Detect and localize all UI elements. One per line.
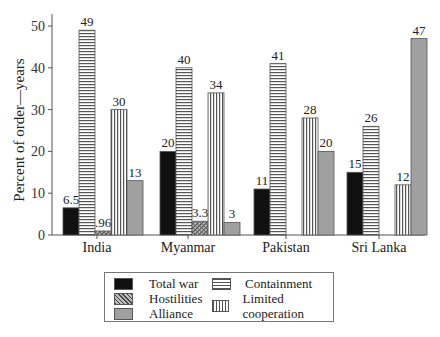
y-axis-label: Percent of order—years [11,58,27,201]
legend-swatch-alliance [114,308,133,320]
bar [127,181,143,235]
bar [347,172,363,235]
bar-value-label: 13 [129,165,142,180]
bar [318,151,334,235]
bar-value-label: 20 [162,135,175,150]
bar-value-label: 3 [229,206,236,221]
bar [79,30,95,235]
legend-label: Containment [245,276,312,291]
chart-legend: Total war Hostilities Alliance Containme… [104,272,334,322]
bar-value-label: 11 [256,173,269,188]
bar [302,118,318,235]
bar-value-label: 34 [210,77,224,92]
legend-swatch-limited-cooperation [212,300,229,312]
bar-value-label: 41 [272,48,285,63]
bar [208,93,224,235]
y-tick-label: 0 [38,228,45,243]
legend-item-alliance: Alliance [114,306,193,321]
y-tick-label: 10 [31,186,45,201]
bar-value-label: 40 [178,52,191,67]
bar [363,126,379,235]
legend-item-hostilities: Hostilities [114,291,202,306]
bar [224,222,240,235]
bar-value-label: 6.5 [63,192,79,207]
bar [411,39,427,235]
legend-label: Alliance [149,306,193,321]
bar [395,185,411,235]
legend-item-limited-cooperation: Limited cooperation [212,291,333,321]
legend-item-total-war: Total war [114,276,198,291]
y-tick-label: 20 [31,144,45,159]
bar-value-label: 3.3 [192,205,208,220]
legend-label: Hostilities [149,291,202,306]
x-tick-label: Pakistan [262,240,309,255]
y-tick-label: 50 [31,19,45,34]
x-tick-label: Myanmar [161,240,216,255]
legend-item-containment: Containment [212,276,312,291]
bar-value-label: 30 [113,94,126,109]
legend-label: Total war [149,276,198,291]
bar-value-label: 26 [365,110,379,125]
bar [63,208,79,235]
bar-value-label: 20 [320,135,333,150]
bar-value-label: .96 [95,215,112,230]
x-tick-label: Sri Lanka [352,240,408,255]
legend-swatch-hostilities [114,293,133,305]
bar [176,68,192,235]
bar [160,151,176,235]
bar [111,110,127,235]
bar-value-label: 12 [397,169,410,184]
legend-swatch-total-war [114,278,133,290]
bar-value-label: 47 [413,23,427,38]
bar [254,189,270,235]
bar-value-label: 15 [349,156,362,171]
legend-swatch-containment [212,278,231,290]
bar-value-label: 28 [304,102,317,117]
y-tick-label: 30 [31,103,45,118]
x-tick-label: India [83,240,113,255]
bar [270,64,286,235]
bar [192,221,208,235]
y-tick-label: 40 [31,61,45,76]
legend-label: Limited cooperation [243,291,333,321]
bar [95,231,111,235]
bar-value-label: 49 [81,14,94,29]
